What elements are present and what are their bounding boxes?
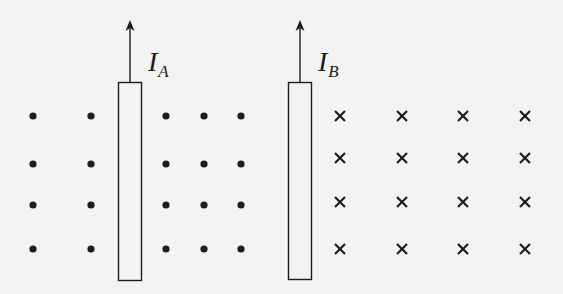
field-in-cross-icon [335, 153, 345, 163]
field-out-dot-icon [87, 245, 94, 252]
current-subscript-b: B [328, 62, 338, 81]
field-out-dot-icon [237, 201, 244, 208]
current-symbol-a: I [148, 46, 157, 77]
field-in-cross-icon [397, 197, 407, 207]
field-out-dot-icon [29, 201, 36, 208]
field-out-dot-icon [162, 112, 169, 119]
field-in-cross-icon [458, 111, 468, 121]
diagram-canvas: IA IB [0, 0, 563, 294]
field-out-dot-icon [237, 160, 244, 167]
field-out-dot-icon [237, 245, 244, 252]
field-out-dot-icon [87, 112, 94, 119]
field-out-dot-icon [200, 112, 207, 119]
field-in-cross-icon [397, 111, 407, 121]
current-subscript-a: A [158, 62, 168, 81]
field-in-cross-icon [458, 244, 468, 254]
field-in-cross-icon [520, 244, 530, 254]
field-in-cross-icon [520, 197, 530, 207]
current-label-a: IA [148, 48, 169, 76]
field-out-dot-icon [29, 112, 36, 119]
field-in-cross-icon [335, 244, 345, 254]
field-in-cross-icon [335, 197, 345, 207]
field-out-dot-icon [162, 245, 169, 252]
field-out-dot-icon [200, 201, 207, 208]
field-in-cross-icon [520, 111, 530, 121]
field-in-cross-icon [397, 153, 407, 163]
field-in-cross-icon [397, 244, 407, 254]
field-in-cross-icon [335, 111, 345, 121]
conductor-b [289, 83, 312, 280]
field-out-dot-icon [87, 201, 94, 208]
field-out-dot-icon [162, 201, 169, 208]
field-in-cross-icon [458, 197, 468, 207]
field-out-dot-icon [29, 160, 36, 167]
field-in-cross-icon [458, 153, 468, 163]
current-label-b: IB [318, 48, 339, 76]
field-out-dot-icon [29, 245, 36, 252]
current-symbol-b: I [318, 46, 327, 77]
field-out-dot-icon [200, 160, 207, 167]
field-out-dot-icon [162, 160, 169, 167]
conductor-field-diagram [0, 0, 563, 294]
field-out-dot-icon [87, 160, 94, 167]
field-out-dot-icon [237, 112, 244, 119]
conductor-a [119, 83, 142, 281]
field-out-dot-icon [200, 245, 207, 252]
field-in-cross-icon [520, 153, 530, 163]
